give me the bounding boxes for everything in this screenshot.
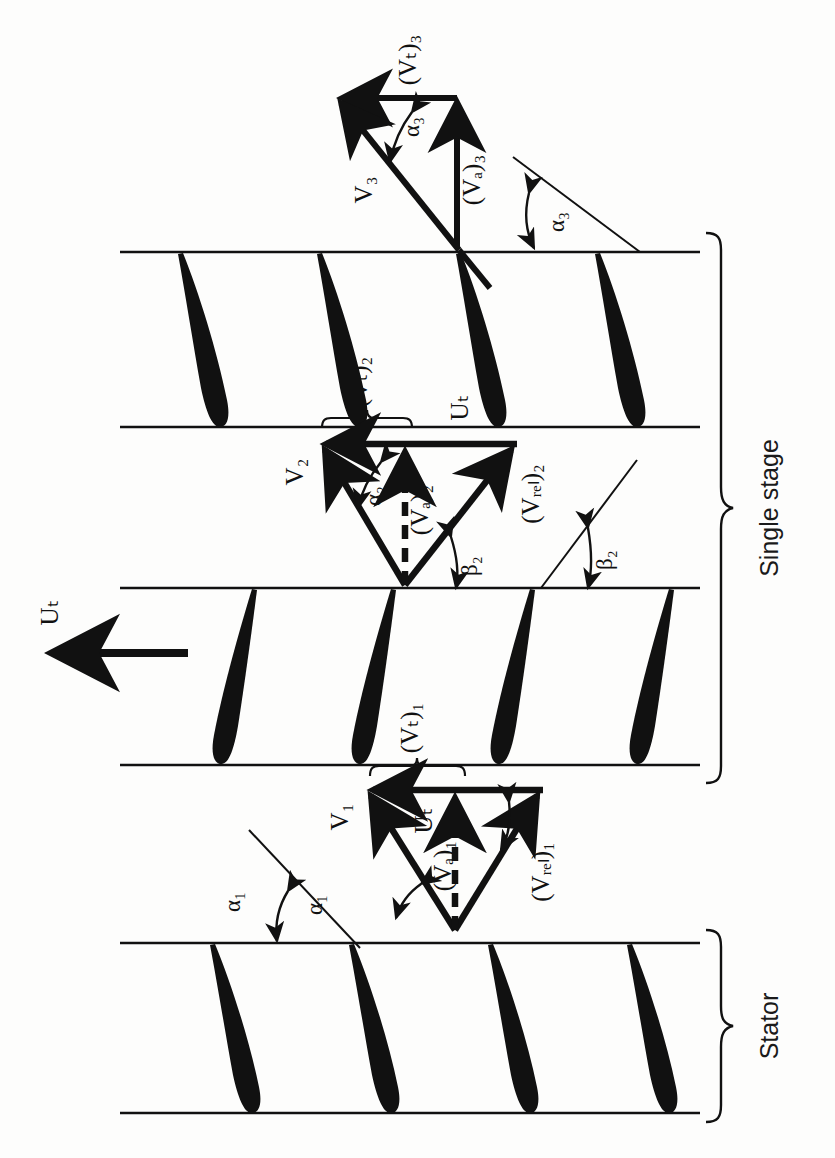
blade-row-rotor-upper [178, 253, 645, 427]
label-Vrel1: (Vᵣₑₗ)₁ [527, 842, 555, 902]
blade [627, 944, 677, 1113]
alpha-1-triangle-arc [396, 884, 421, 918]
rotor-exit-chord-line [541, 460, 637, 588]
label-beta2-triangle: β₂ [457, 556, 482, 576]
blade [630, 589, 674, 764]
label-alpha1-triangle: α₁ [302, 895, 327, 915]
velocity-triangle-diagram: (Vₜ)₃ (Vₐ)₃ V₃ α₃ α₃ (Vₜ)₂ Uₜ V₂ α₂ (Vₐ)… [0, 0, 835, 1158]
exit-flow-direction-line [513, 157, 640, 252]
beta-2-blade-arc [588, 528, 591, 588]
stator-inlet-chord-line [249, 830, 360, 948]
label-Vt2: (Vₜ)₂ [345, 357, 373, 407]
label-Vt3: (Vₜ)₃ [394, 35, 422, 85]
blade-row-rotor-lower [213, 589, 674, 764]
alpha-3-blade-arc [526, 193, 534, 248]
label-Ut-main: Uₜ [36, 600, 63, 625]
blade [213, 589, 257, 764]
blade-row-stator [210, 944, 677, 1113]
blade [210, 944, 260, 1113]
bracket-label-stator: Stator [755, 993, 783, 1060]
blade [595, 253, 645, 427]
label-Va2: (Vₐ)₂ [406, 485, 434, 535]
blade [488, 944, 538, 1113]
label-alpha3-triangle: α₃ [399, 117, 424, 137]
single-stage-bracket [706, 233, 733, 783]
station-3-exit-triangle [341, 98, 640, 288]
bracket-label-single-stage: Single stage [755, 439, 783, 577]
label-alpha3-blade: α₃ [544, 212, 569, 232]
label-beta2-blade: β₂ [592, 550, 617, 570]
label-V2: V₂ [281, 459, 308, 486]
label-Ut-bottom: Uₜ [410, 808, 437, 833]
blade [491, 589, 535, 764]
alpha-1-blade-arc [276, 891, 288, 941]
label-V1: V₁ [326, 804, 353, 831]
blade [349, 944, 399, 1113]
side-brackets [706, 233, 733, 1122]
blade [352, 589, 396, 764]
label-Vrel2: (Vᵣₑₗ)₂ [517, 464, 545, 524]
label-beta1: β₁ [502, 807, 527, 827]
absolute-velocity-V2 [325, 450, 405, 585]
vt1-brace [370, 758, 465, 776]
label-Ut-mid: Uₜ [446, 395, 473, 420]
label-V3: V₃ [350, 177, 377, 204]
label-alpha1-blade: α₁ [220, 892, 245, 912]
stator-bracket [706, 930, 733, 1122]
station-1-rotor-inlet-triangle [249, 758, 543, 948]
vt2-brace [322, 410, 412, 428]
blade [178, 253, 228, 427]
figure-canvas: (Vₜ)₃ (Vₐ)₃ V₃ α₃ α₃ (Vₜ)₂ Uₜ V₂ α₂ (Vₐ)… [0, 0, 835, 1158]
label-Va1: (Vₐ)₁ [429, 841, 457, 891]
label-Vt1: (Vₜ)₁ [396, 703, 424, 753]
label-alpha2: α₂ [361, 486, 386, 506]
label-Va3: (Vₐ)₃ [458, 155, 486, 205]
